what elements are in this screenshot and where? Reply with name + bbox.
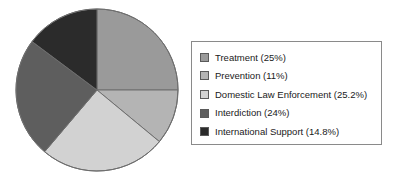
legend-label-domestic-law-enforcement: Domestic Law Enforcement (25.2%)	[215, 90, 367, 100]
legend-item-prevention[interactable]: Prevention (11%)	[200, 67, 381, 86]
legend-label-interdiction: Interdiction (24%)	[215, 108, 289, 118]
legend-item-domestic-law-enforcement[interactable]: Domestic Law Enforcement (25.2%)	[200, 85, 381, 104]
legend-swatch-domestic-law-enforcement	[200, 90, 209, 99]
pie-chart-screenshot: Treatment (25%) Prevention (11%) Domesti…	[0, 0, 413, 184]
legend-item-interdiction[interactable]: Interdiction (24%)	[200, 104, 381, 123]
pie-slice-treatment[interactable]	[97, 9, 178, 90]
pie-chart-svg	[15, 8, 179, 172]
legend-label-prevention: Prevention (11%)	[215, 71, 288, 81]
legend-swatch-treatment	[200, 53, 209, 62]
legend-label-international-support: International Support (14.8%)	[215, 127, 339, 137]
legend-swatch-interdiction	[200, 109, 209, 118]
chart-legend: Treatment (25%) Prevention (11%) Domesti…	[191, 41, 382, 145]
legend-item-treatment[interactable]: Treatment (25%)	[200, 48, 381, 67]
pie-chart	[15, 8, 179, 172]
legend-item-international-support[interactable]: International Support (14.8%)	[200, 122, 381, 141]
legend-swatch-international-support	[200, 127, 209, 136]
legend-label-treatment: Treatment (25%)	[215, 53, 286, 63]
legend-swatch-prevention	[200, 71, 209, 80]
